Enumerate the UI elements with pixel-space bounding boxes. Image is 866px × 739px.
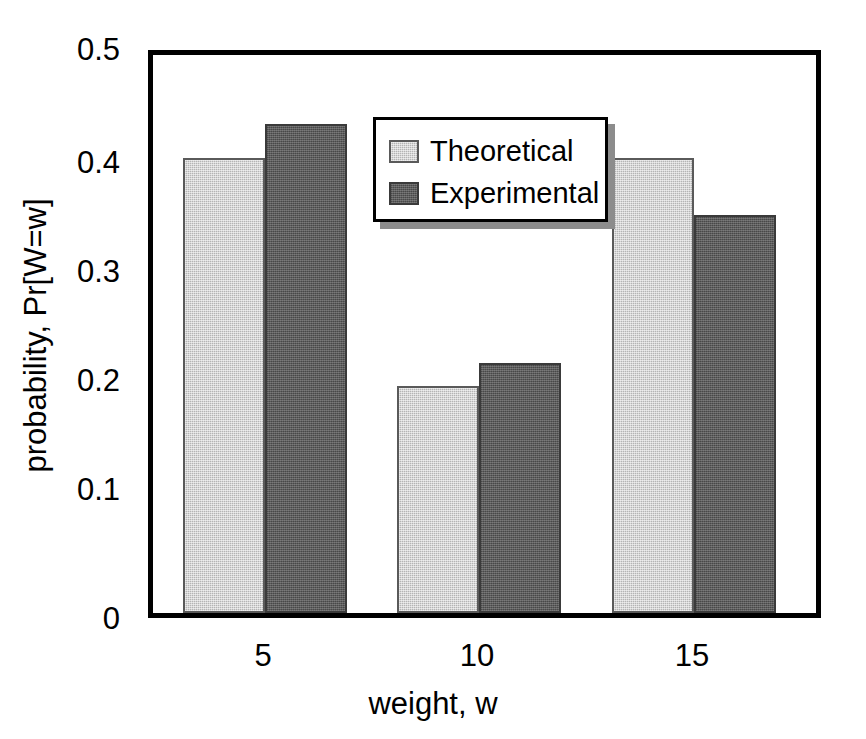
bar-theoretical-w10 bbox=[397, 386, 479, 613]
bar-theoretical-w15 bbox=[612, 158, 694, 613]
x-tick-label-15: 15 bbox=[602, 640, 782, 671]
x-tick-label-10: 10 bbox=[387, 640, 567, 671]
bar-experimental-w5 bbox=[265, 124, 347, 613]
legend-swatch-experimental bbox=[389, 182, 419, 205]
legend-item-experimental: Experimental bbox=[389, 173, 595, 213]
x-tick-label-5: 5 bbox=[173, 640, 353, 671]
legend-swatch-theoretical bbox=[389, 140, 419, 163]
bar-experimental-w15 bbox=[694, 215, 776, 613]
y-tick-label-0: 0 bbox=[10, 603, 120, 634]
y-tick-label-0.4: 0.4 bbox=[10, 147, 120, 178]
legend-label-experimental: Experimental bbox=[430, 179, 599, 208]
legend-label-theoretical: Theoretical bbox=[430, 137, 573, 166]
legend-item-theoretical: Theoretical bbox=[389, 131, 595, 171]
y-tick-label-0.2: 0.2 bbox=[10, 365, 120, 396]
bar-theoretical-w5 bbox=[183, 158, 265, 613]
y-tick-label-0.5: 0.5 bbox=[10, 34, 120, 65]
y-tick-label-0.1: 0.1 bbox=[10, 474, 120, 505]
legend: Theoretical Experimental bbox=[373, 117, 608, 222]
y-tick-label-0.3: 0.3 bbox=[10, 256, 120, 287]
x-axis-title: weight, w bbox=[0, 688, 866, 719]
bar-experimental-w10 bbox=[479, 363, 561, 613]
bar-chart: probability, Pr[W=w] 0.5 0.4 0.3 0.2 0.1… bbox=[0, 0, 866, 739]
